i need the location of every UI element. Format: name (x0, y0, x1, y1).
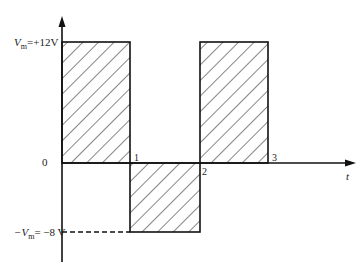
tick-3-label: 3 (272, 152, 277, 163)
waveform-diagram: Vm=+12V 0 1 2 3 t −Vm= −8 V (0, 0, 363, 278)
tick-1-label: 1 (134, 152, 139, 163)
origin-label: 0 (42, 156, 48, 168)
positive-pulse-1 (62, 42, 130, 163)
positive-pulse-2 (200, 42, 268, 163)
tick-2-label: 2 (202, 166, 207, 177)
t-axis-label: t (346, 170, 350, 182)
negative-pulse (130, 163, 200, 232)
vm-negative-label: −Vm= −8 V (14, 226, 66, 241)
vm-positive-label: Vm=+12V (14, 36, 58, 51)
y-axis-arrow-icon (59, 16, 66, 27)
t-axis-arrow-icon (345, 160, 356, 167)
